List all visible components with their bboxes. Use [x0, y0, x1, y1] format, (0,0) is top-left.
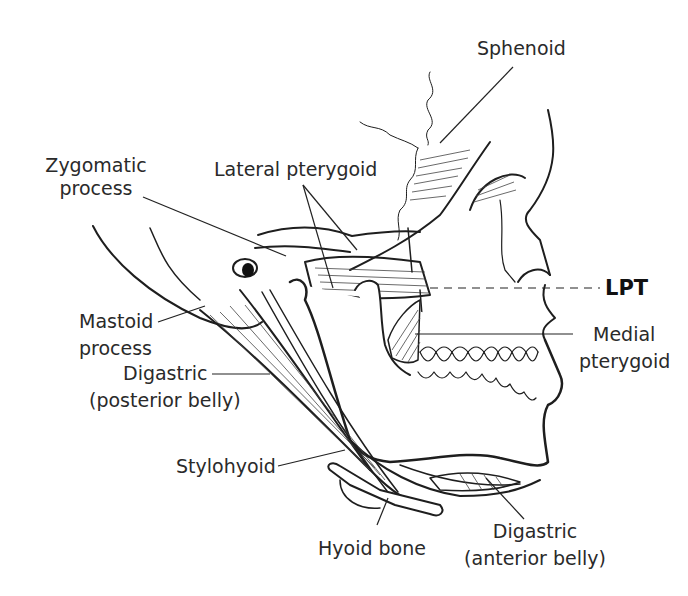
label-lpt: LPT	[605, 277, 648, 300]
label-sphenoid: Sphenoid	[477, 37, 566, 60]
label-digastric-posterior-belly: Digastric (posterior belly)	[89, 362, 241, 412]
label-medial-pterygoid-line1: Medial	[579, 323, 670, 346]
label-zygomatic-process: Zygomatic process	[40, 154, 152, 200]
leader-lateral-pterygoid-2	[303, 185, 357, 250]
label-lateral-pterygoid: Lateral pterygoid	[214, 158, 377, 181]
label-mastoid-process-line2: process	[79, 337, 153, 360]
label-mastoid-process-line1: Mastoid	[79, 310, 153, 333]
label-digastric-anterior-line2: (anterior belly)	[462, 547, 608, 570]
anatomy-figure: Sphenoid Zygomatic process Lateral ptery…	[0, 0, 688, 596]
label-digastric-posterior-line2: (posterior belly)	[89, 389, 241, 412]
label-hyoid-bone: Hyoid bone	[318, 537, 426, 560]
skull-jaw-illustration	[0, 0, 688, 596]
label-stylohyoid: Stylohyoid	[176, 455, 276, 478]
label-medial-pterygoid: Medial pterygoid	[579, 323, 670, 373]
leader-zygomatic-process	[143, 197, 286, 256]
label-digastric-posterior-line1: Digastric	[89, 362, 241, 385]
leader-sphenoid	[440, 67, 513, 143]
label-zygomatic-process-line2: process	[40, 177, 152, 200]
label-medial-pterygoid-line2: pterygoid	[579, 350, 670, 373]
label-digastric-anterior-line1: Digastric	[462, 520, 608, 543]
leader-hyoid-bone	[377, 498, 388, 525]
label-digastric-anterior-belly: Digastric (anterior belly)	[462, 520, 608, 570]
label-mastoid-process: Mastoid process	[79, 310, 153, 360]
digastric-anterior-belly-muscle	[430, 473, 520, 491]
label-zygomatic-process-line1: Zygomatic	[40, 154, 152, 177]
